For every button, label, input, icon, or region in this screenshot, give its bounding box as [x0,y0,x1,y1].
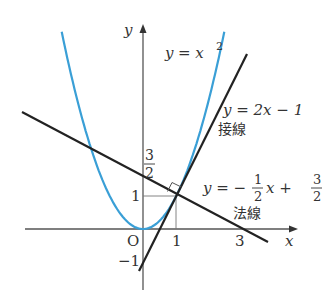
y-axis-label: y [123,21,133,39]
tick-y1: 1 [131,187,141,205]
normal-frac1-den: 2 [254,189,262,204]
diagram: y x O y = x 2 y = 2x − 1 接線 y = − 1 2 x … [0,0,335,293]
normal-equation-lhs: y = − [202,179,246,197]
parabola-label-exp: 2 [216,40,223,53]
normal-frac1-num: 1 [254,172,262,187]
tangent-jp-label: 接線 [218,121,246,137]
tangent-line [139,54,247,271]
normal-frac2-num: 3 [313,172,321,187]
normal-jp-label: 法線 [233,205,261,221]
normal-frac2-den: 2 [313,189,321,204]
parabola-label-y: y [164,44,174,62]
origin-label: O [127,232,139,250]
tick-x3: 3 [235,232,245,250]
tangent-equation: y = 2x − 1 [222,101,303,119]
tick-y32-den: 2 [145,165,154,181]
tick-ym1: −1 [118,252,140,270]
x-axis-label: x [285,232,294,250]
parabola-label-eq: = x [178,44,204,62]
tick-x1: 1 [172,232,182,250]
normal-equation-mid: x + [266,179,292,197]
tick-y32-num: 3 [145,147,154,163]
y-axis-arrow-icon [140,24,147,33]
